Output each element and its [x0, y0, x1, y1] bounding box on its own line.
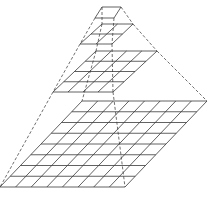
level-3-grid [53, 51, 157, 92]
level-2-grid [80, 24, 133, 44]
dashed-edge-tl [82, 51, 96, 101]
dashed-edge-tr [157, 51, 207, 101]
level-4-grid [0, 101, 207, 187]
grid-col-line [95, 7, 102, 18]
level-1-grid [95, 7, 121, 18]
dashed-edge-br [112, 18, 114, 44]
dashed-edge-tl [96, 24, 102, 51]
pyramid-levels [0, 7, 207, 187]
dashed-edge-tr [121, 7, 133, 24]
dashed-edge-bl [80, 18, 95, 44]
dashed-edge-tr [133, 24, 157, 51]
pyramid-diagram [0, 0, 214, 198]
grid-col-line [114, 7, 121, 18]
